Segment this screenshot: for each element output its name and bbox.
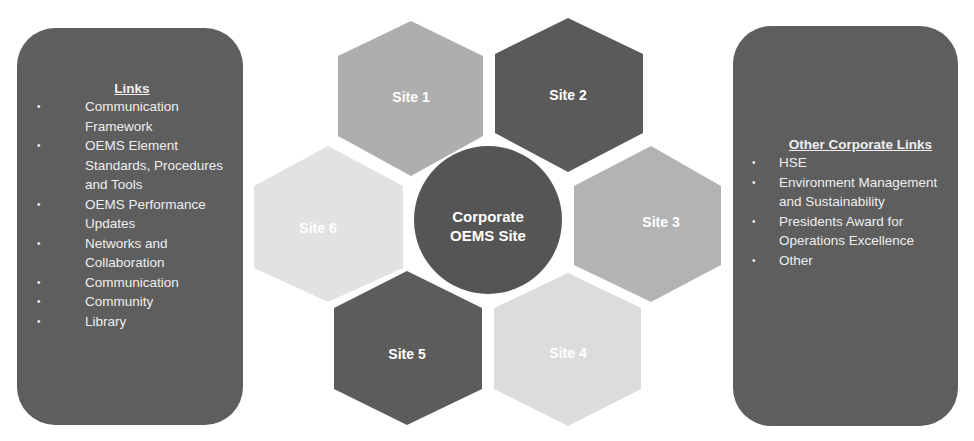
center-label-line1: Corporate [450, 207, 526, 226]
site-4-label: Site 4 [549, 345, 586, 361]
site-3-label: Site 3 [642, 214, 679, 230]
center-label-line2: OEMS Site [450, 226, 526, 245]
site-2-label: Site 2 [549, 87, 586, 103]
site-1-label: Site 1 [392, 89, 429, 105]
site-6-label: Site 6 [299, 220, 336, 236]
corporate-oems-site-label: Corporate OEMS Site [450, 207, 526, 245]
site-5-label: Site 5 [388, 346, 425, 362]
